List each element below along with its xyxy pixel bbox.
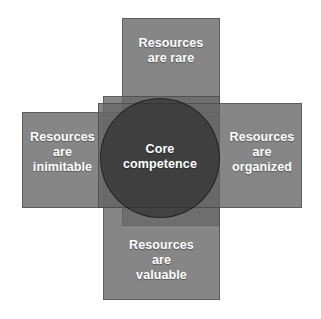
criterion-label-inimitable: Resources are inimitable <box>22 130 103 175</box>
criterion-label-rare: Resources are rare <box>122 36 220 66</box>
criterion-label-organized: Resources are organized <box>222 130 302 175</box>
core-competence-label: Core competence <box>110 142 210 172</box>
criterion-label-valuable: Resources are valuable <box>103 238 220 283</box>
diagram-canvas: Resources are rare Resources are organiz… <box>0 0 321 319</box>
